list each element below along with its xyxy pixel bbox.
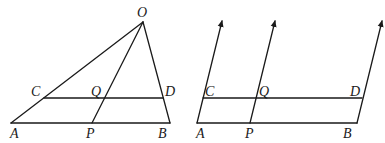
label-Q-right: Q xyxy=(259,84,269,99)
label-D-right: D xyxy=(349,84,360,99)
right-figure: C Q D A P B xyxy=(195,21,382,141)
diagram-canvas: O C Q D A P B C Q D A P B xyxy=(0,0,385,143)
label-C-right: C xyxy=(205,84,215,99)
label-P-right: P xyxy=(244,126,254,141)
ray-through-B-D xyxy=(357,21,382,123)
left-figure: O C Q D A P B xyxy=(9,5,175,141)
segment-OB xyxy=(143,22,170,123)
label-B-right: B xyxy=(343,126,352,141)
label-C: C xyxy=(31,84,41,99)
label-D: D xyxy=(164,84,175,99)
label-B: B xyxy=(158,126,167,141)
label-A: A xyxy=(9,126,19,141)
ray-through-A-C xyxy=(197,21,222,123)
segment-OP xyxy=(92,22,143,123)
segment-OA xyxy=(11,22,143,123)
label-A-right: A xyxy=(195,126,205,141)
label-O: O xyxy=(137,5,147,20)
geometry-diagram: O C Q D A P B C Q D A P B xyxy=(0,0,385,143)
ray-through-P-Q xyxy=(250,21,275,123)
label-Q: Q xyxy=(91,84,101,99)
label-P: P xyxy=(85,126,95,141)
